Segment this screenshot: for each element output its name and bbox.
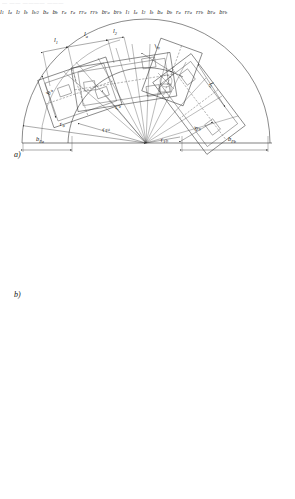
svg-text:bFa: bFa [36, 135, 44, 144]
svg-text:la: la [84, 30, 88, 39]
panel-a-labels: l1 la l2 lb lb ba bb ra ra rFa rFb bFa b… [36, 27, 237, 145]
panel-a-lb-top-dimension [143, 54, 172, 72]
panel-b-caption: b) [14, 290, 21, 299]
svg-text:l1: l1 [54, 36, 58, 45]
svg-text:ba: ba [44, 88, 54, 96]
panel-a-rFa2-dimension [80, 124, 146, 143]
svg-text:ra: ra [59, 119, 65, 128]
svg-text:lb: lb [153, 41, 161, 51]
panel-a-diagram: l1 la l2 lb lb ba bb ra ra rFa rFb bFa b… [22, 19, 272, 154]
svg-text:bb: bb [193, 123, 203, 134]
svg-text:bFb: bFb [228, 135, 237, 144]
svg-text:lb: lb [207, 81, 217, 90]
panel-a-caption: a) [14, 150, 21, 159]
svg-text:l2: l2 [113, 27, 118, 36]
svg-text:rFa: rFa [101, 124, 111, 135]
panel-a-ra-dimension [103, 92, 146, 143]
panel-a-body-mid [71, 52, 177, 111]
technical-drawing-sheet: l1 la l2 lb lb ba bb ra ra rFa rFb bFa b… [0, 0, 295, 499]
